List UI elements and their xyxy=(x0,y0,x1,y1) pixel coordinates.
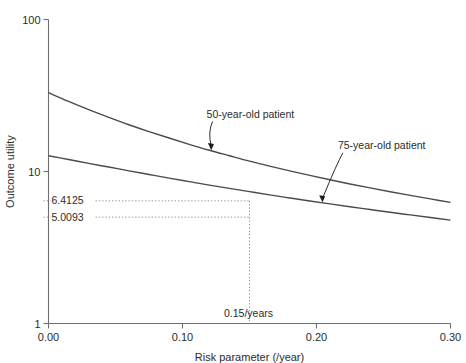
series-label-75-year-old: 75-year-old patient xyxy=(338,139,426,151)
y-tick-label: 10 xyxy=(28,166,40,178)
series-label-50-year-old: 50-year-old patient xyxy=(207,108,295,120)
x-tick-label: 0.10 xyxy=(172,331,193,343)
x-axis-title: Risk parameter (/year) xyxy=(195,351,304,363)
y-axis-title: Outcome utility xyxy=(4,135,16,208)
risk-point-label: 0.15/years xyxy=(224,307,273,319)
x-tick-label: 0.30 xyxy=(440,331,461,343)
x-tick-label: 0.00 xyxy=(38,331,59,343)
y-tick-label: 1 xyxy=(34,318,40,330)
chart-figure: 110100 0.000.100.200.30 50-year-old pati… xyxy=(0,0,466,363)
outcome-utility-log-chart: 110100 0.000.100.200.30 50-year-old pati… xyxy=(0,0,466,363)
y-tick-label: 100 xyxy=(22,14,40,26)
value-label-lower: 5.0093 xyxy=(52,211,84,223)
value-label-upper: 6.4125 xyxy=(52,194,84,206)
x-tick-label: 0.20 xyxy=(306,331,327,343)
